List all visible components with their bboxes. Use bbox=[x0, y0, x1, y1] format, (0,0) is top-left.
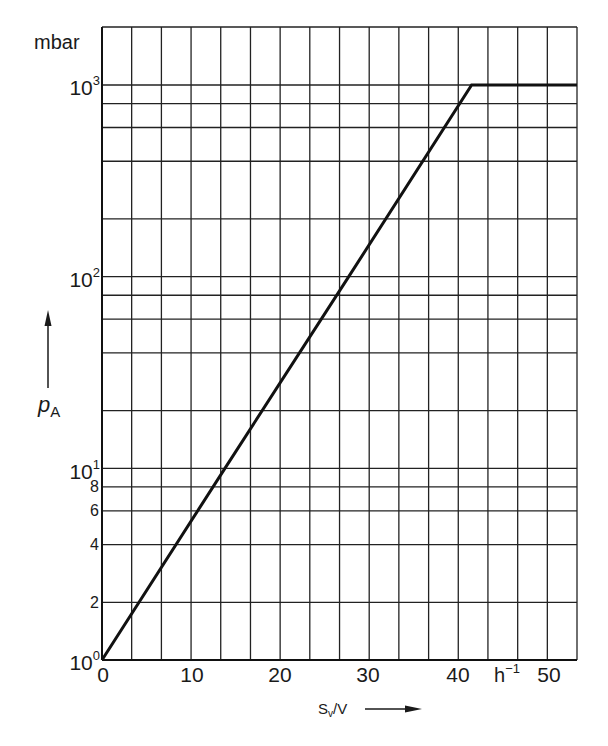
x-tick-40: 40 bbox=[438, 664, 478, 685]
x-axis-variable-label: Sv/V bbox=[318, 701, 347, 716]
x-tick-20: 20 bbox=[260, 664, 300, 685]
y-tick-100: 102 bbox=[40, 269, 100, 290]
y-tick-4: 4 bbox=[39, 537, 99, 553]
y-tick-8: 8 bbox=[39, 479, 99, 495]
x-axis-arrow-head bbox=[405, 706, 422, 713]
x-tick-10: 10 bbox=[172, 664, 212, 685]
y-axis-arrow-head bbox=[45, 310, 52, 326]
y-axis-variable-label: pA bbox=[38, 394, 60, 416]
y-tick-6: 6 bbox=[39, 503, 99, 519]
x-tick-30: 30 bbox=[348, 664, 388, 685]
x-tick-0: 0 bbox=[83, 664, 123, 685]
chart-canvas bbox=[0, 0, 608, 746]
y-tick-1000: 103 bbox=[40, 77, 100, 98]
x-tick-50: 50 bbox=[529, 664, 569, 685]
x-unit-label: h−1 bbox=[494, 665, 520, 685]
y-tick-2: 2 bbox=[39, 595, 99, 611]
grid-lines bbox=[102, 27, 577, 660]
y-unit-label: mbar bbox=[34, 32, 80, 52]
